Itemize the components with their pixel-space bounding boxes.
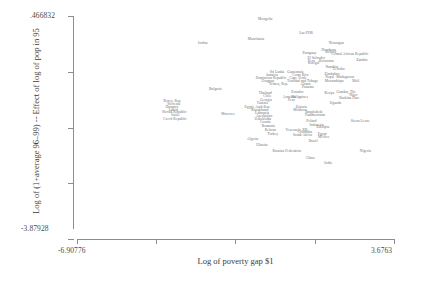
data-point-label: China — [306, 156, 315, 160]
data-point-label: Brazil — [309, 139, 318, 143]
data-point-label: Ukraine — [256, 143, 268, 147]
data-point-label: Panama — [302, 85, 314, 89]
x-axis-tick — [77, 239, 78, 244]
y-axis-line — [73, 16, 74, 229]
data-point-label: Czech Republic — [163, 117, 187, 121]
x-axis-max-label: 3.6763 — [371, 246, 392, 255]
data-point-label: Paraguay — [303, 51, 317, 55]
y-axis-tick — [68, 128, 74, 129]
data-point-label: Zambia — [356, 58, 367, 62]
data-point-label: Lesotho — [333, 67, 345, 71]
data-point-label: Romania — [262, 124, 275, 128]
data-point-label: Sierra Leone — [351, 119, 370, 123]
data-point-label: South Africa — [293, 133, 312, 137]
data-point-label: Nigeria — [360, 149, 371, 153]
y-axis-tick — [68, 239, 74, 240]
y-axis-tick — [68, 16, 74, 17]
data-point-label: Mongolia — [258, 17, 272, 21]
data-point-label: Nicaragua — [329, 41, 344, 45]
data-point-label: India — [324, 161, 332, 165]
x-axis-tick — [394, 239, 395, 244]
y-axis-title: Log of (1+average 96–99) -- Effect of lo… — [31, 6, 41, 236]
scatter-plot: .466832 -3.87928 -6.90776 3.6763 Log of … — [0, 0, 425, 282]
data-point-label: Mauritania — [248, 37, 264, 41]
x-axis-tick — [156, 239, 157, 244]
y-axis-tick — [68, 72, 74, 73]
data-point-label: Burkina Faso — [339, 96, 359, 100]
y-axis-tick — [68, 183, 74, 184]
data-point-label: Mali — [352, 79, 359, 83]
data-point-label: Morocco — [221, 112, 234, 116]
x-axis-title: Log of poverty gap $1 — [77, 256, 394, 266]
data-point-label: Kenya — [325, 91, 335, 95]
data-point-label: Turkmenistan — [305, 113, 325, 117]
data-point-label: Bulgaria — [209, 87, 222, 91]
data-point-label: Lao PDR — [299, 31, 313, 35]
data-point-label: Russian Federation — [273, 149, 302, 153]
data-point-label: Turkey — [268, 132, 279, 136]
x-axis-tick — [315, 239, 316, 244]
x-axis-tick — [235, 239, 236, 244]
data-point-label: Central African Republic — [331, 52, 368, 56]
data-point-label: Ecuador — [291, 90, 303, 94]
data-point-label: Senegal — [308, 61, 320, 65]
data-point-label: Ethiopia — [317, 125, 330, 129]
data-point-label: Yemen, Rep. — [269, 82, 288, 86]
data-point-label: Peru — [288, 98, 295, 102]
data-point-label: Uganda — [330, 101, 341, 105]
data-point-label: Algeria — [247, 137, 258, 141]
x-axis-min-label: -6.90776 — [58, 246, 86, 255]
data-point-label: Jordan — [198, 41, 208, 45]
data-point-label: Mexico — [318, 135, 329, 139]
data-point-label: Mozambique — [325, 79, 344, 83]
